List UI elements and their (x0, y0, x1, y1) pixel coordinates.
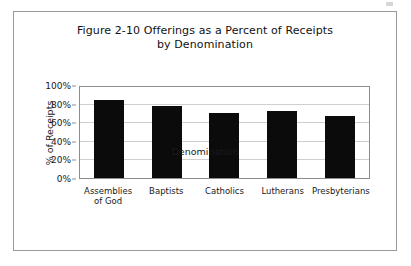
y-axis-tick-label: 100% (45, 81, 71, 91)
x-axis-tick-label-line: Catholics (195, 186, 253, 196)
y-axis-tick-mark (72, 179, 76, 180)
bar-slot (138, 87, 196, 178)
x-axis-tick-labels: Assembliesof GodBaptistsCatholicsLuthera… (79, 179, 370, 206)
bar-slot (253, 87, 311, 178)
y-axis-tick-mark (72, 160, 76, 161)
chart-title: Figure 2-10 Offerings as a Percent of Re… (14, 24, 396, 52)
bar-assemblies-of-god (94, 100, 124, 178)
scan-artifact (386, 2, 393, 6)
y-axis-ticks: 100%80%60%40%20%0% (37, 86, 75, 179)
bar-lutherans (267, 111, 297, 178)
y-axis-tick-mark (72, 141, 76, 142)
x-axis-tick-label-line: Assemblies (79, 186, 137, 196)
y-axis-tick-label: 60% (51, 118, 71, 128)
plot-area (79, 86, 370, 179)
y-axis-tick-mark (72, 104, 76, 105)
chart-title-line-1: Figure 2-10 Offerings as a Percent of Re… (14, 24, 396, 38)
y-axis-tick-mark (72, 86, 76, 87)
x-axis-tick-label-line: Baptists (137, 186, 195, 196)
figure-frame: Figure 2-10 Offerings as a Percent of Re… (13, 11, 397, 251)
x-axis-tick-label: Presbyterians (312, 179, 370, 206)
bar-slot (311, 87, 369, 178)
bars-layer (80, 87, 369, 178)
y-axis-tick-label: 0% (57, 174, 71, 184)
x-axis-tick-label: Catholics (195, 179, 253, 206)
y-axis-tick-mark (72, 123, 76, 124)
y-axis-tick-label: 80% (51, 100, 71, 110)
x-axis-tick-label: Assembliesof God (79, 179, 137, 206)
x-axis-tick-label-line: Presbyterians (312, 186, 370, 196)
x-axis-tick-label: Lutherans (254, 179, 312, 206)
plot-wrapper: % of Receipts 100%80%60%40%20%0% Assembl… (79, 86, 370, 179)
bar-slot (196, 87, 254, 178)
bar-slot (80, 87, 138, 178)
x-axis-tick-label-line: of God (79, 196, 137, 206)
chart-title-line-2: by Denomination (14, 38, 396, 52)
x-axis-tick-label: Baptists (137, 179, 195, 206)
bar-baptists (152, 106, 182, 178)
x-axis-tick-label-line: Lutherans (254, 186, 312, 196)
x-axis-title: Denomination (14, 146, 396, 157)
